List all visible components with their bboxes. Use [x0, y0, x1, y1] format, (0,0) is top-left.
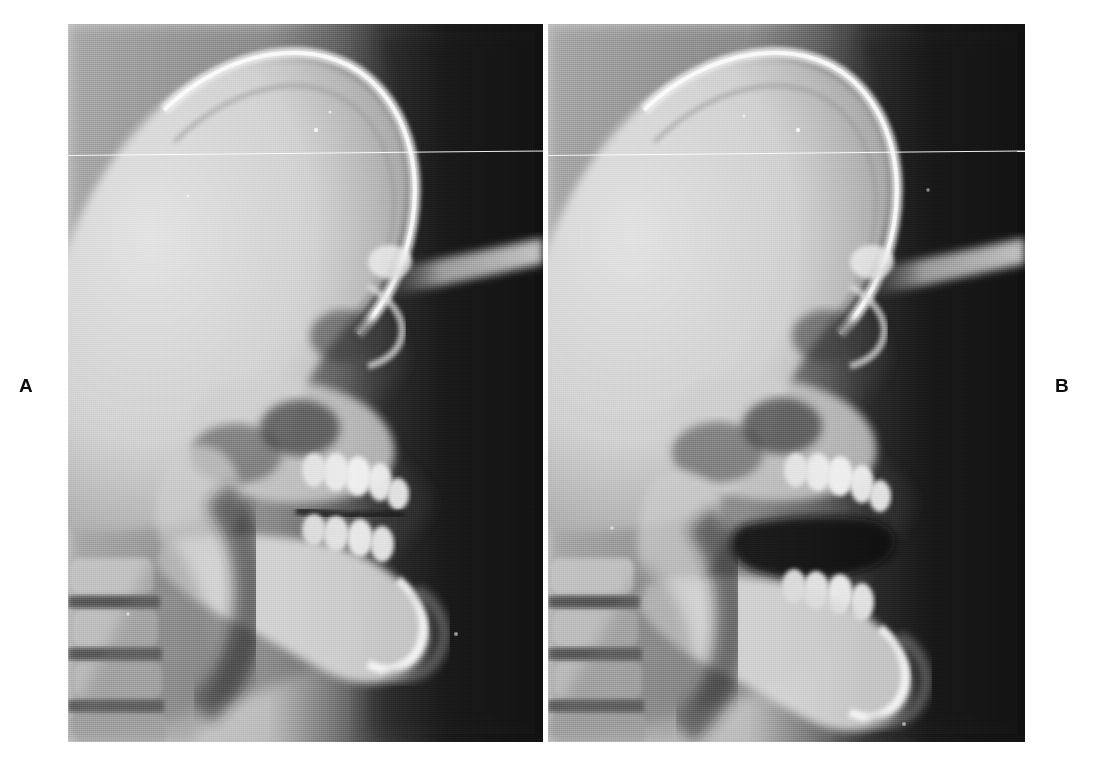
- orbit-b: [792, 310, 860, 362]
- figure-root: A B: [0, 0, 1097, 770]
- radiograph-image-b: [548, 24, 1025, 742]
- radiograph-panel-a: [68, 24, 543, 742]
- radiograph-image-a: [68, 24, 543, 742]
- panel-label-b: B: [1055, 376, 1069, 395]
- panel-label-a: A: [19, 376, 33, 395]
- orbit-a: [310, 310, 378, 362]
- radiograph-panel-b: [548, 24, 1025, 742]
